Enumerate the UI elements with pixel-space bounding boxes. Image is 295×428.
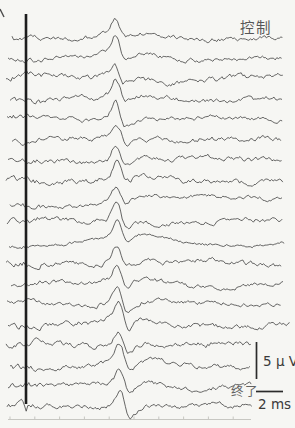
figure-background [0, 0, 295, 428]
label-time-scale: 2 ms [258, 396, 291, 412]
label-end: 终了 [231, 384, 259, 399]
figure-canvas: 控制 终了 5 μ V 2 ms [0, 0, 295, 428]
label-voltage-scale: 5 μ V [263, 353, 295, 369]
label-control: 控制 [240, 20, 272, 36]
figure: 控制 终了 5 μ V 2 ms [0, 0, 295, 428]
stimulus-artifact-bar [25, 14, 28, 404]
